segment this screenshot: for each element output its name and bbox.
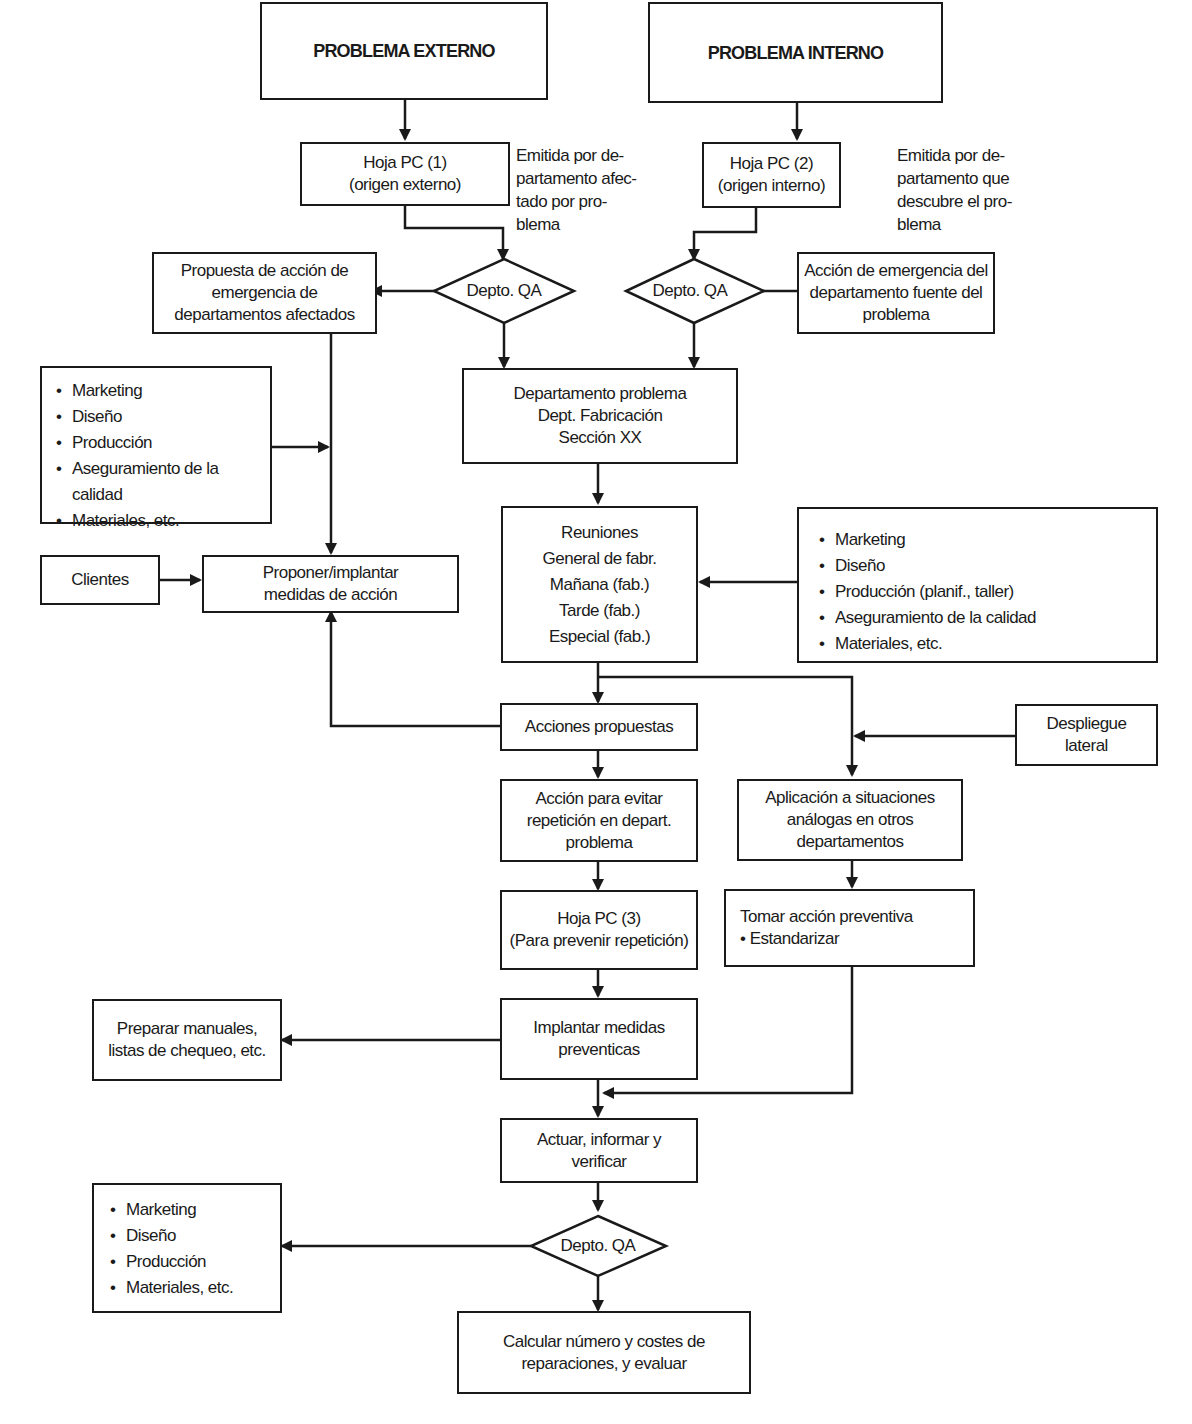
list-item: Marketing	[819, 527, 1036, 553]
note-pc1: Emitida por de- partamento afec- tado po…	[516, 144, 637, 236]
clientes-box: Clientes	[40, 555, 160, 605]
list-item: Producción	[110, 1249, 233, 1275]
qa-bottom-label: Depto. QA	[548, 1236, 648, 1256]
list-item: Producción	[56, 430, 232, 456]
acciones-propuestas-box: Acciones propuestas	[500, 703, 698, 751]
list-item: • Estandarizar	[740, 928, 839, 950]
qa-right-label: Depto. QA	[640, 281, 740, 301]
list-item: Materiales, etc.	[110, 1275, 233, 1301]
list-item: Producción (planif., taller)	[819, 579, 1036, 605]
tomar-accion-preventiva-box: Tomar acción preventiva • Estandarizar	[724, 889, 975, 967]
implantar-medidas-box: Implantar medidas preventicas	[500, 998, 698, 1080]
aplicacion-analogas-box: Aplicación a situaciones análogas en otr…	[737, 779, 963, 861]
departamento-problema-box: Departamento problema Dept. Fabricación …	[462, 368, 738, 464]
lista-departamentos-izq: Marketing Diseño Producción Aseguramient…	[40, 366, 272, 524]
problema-interno-box: PROBLEMA INTERNO	[648, 2, 943, 103]
accion-evitar-repeticion-box: Acción para evitar repetición en depart.…	[500, 779, 698, 862]
reuniones-box: Reuniones General de fabr. Mañana (fab.)…	[501, 506, 698, 663]
list-item: Diseño	[56, 404, 232, 430]
list-item: Marketing	[110, 1197, 233, 1223]
accion-emergencia-fuente-box: Acción de emergencia del departamento fu…	[797, 252, 995, 334]
preparar-manuales-box: Preparar manuales, listas de chequeo, et…	[92, 999, 282, 1081]
list-item: Aseguramiento de la calidad	[56, 456, 232, 508]
list-item: Diseño	[110, 1223, 233, 1249]
hoja-pc1-box: Hoja PC (1) (origen externo)	[300, 142, 510, 206]
list-item: Marketing	[56, 378, 232, 404]
propuesta-emergencia-box: Propuesta de acción de emergencia de dep…	[152, 252, 377, 334]
problema-externo-box: PROBLEMA EXTERNO	[260, 2, 548, 100]
calcular-evaluar-box: Calcular número y costes de reparaciones…	[457, 1311, 751, 1394]
list-item: Diseño	[819, 553, 1036, 579]
lista-departamentos-inf: Marketing Diseño Producción Materiales, …	[92, 1183, 282, 1313]
flowchart-canvas: PROBLEMA EXTERNO PROBLEMA INTERNO Hoja P…	[0, 0, 1192, 1424]
despliegue-lateral-box: Despliegue lateral	[1015, 704, 1158, 766]
hoja-pc3-box: Hoja PC (3) (Para prevenir repetición)	[500, 890, 698, 970]
lista-departamentos-der: Marketing Diseño Producción (planif., ta…	[797, 507, 1158, 663]
proponer-implantar-box: Proponer/implantar medidas de acción	[202, 555, 459, 613]
hoja-pc2-box: Hoja PC (2) (origen interno)	[702, 142, 841, 208]
list-item: Materiales, etc.	[56, 508, 232, 534]
qa-left-label: Depto. QA	[454, 281, 554, 301]
actuar-informar-box: Actuar, informar y verificar	[500, 1118, 698, 1183]
note-pc2: Emitida por de- partamento que descubre …	[897, 144, 1012, 236]
list-item: Aseguramiento de la calidad	[819, 605, 1036, 631]
list-item: Materiales, etc.	[819, 631, 1036, 657]
